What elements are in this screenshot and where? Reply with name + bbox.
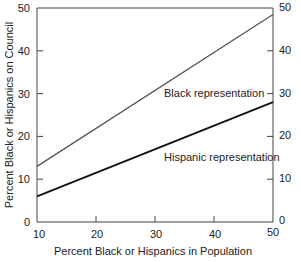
svg-text:0: 0 (24, 216, 30, 228)
svg-text:30: 30 (18, 88, 30, 100)
right-y-tick-labels: 0 10 20 30 40 50 (279, 1, 291, 226)
hispanic-representation-label: Hispanic representation (164, 151, 280, 163)
svg-text:40: 40 (209, 228, 221, 240)
x-axis-title: Percent Black or Hispanics in Population (54, 245, 252, 257)
x-ticks (96, 216, 214, 222)
left-y-tick-labels: 0 10 20 30 40 50 (18, 2, 30, 228)
y-axis-title: Percent Black or Hispanics on Council (3, 22, 15, 208)
svg-text:50: 50 (18, 2, 30, 14)
left-y-ticks (37, 51, 43, 179)
svg-text:50: 50 (267, 226, 279, 238)
black-representation-label: Black representation (164, 87, 264, 99)
svg-text:30: 30 (279, 87, 291, 99)
svg-text:40: 40 (279, 44, 291, 56)
svg-text:20: 20 (279, 129, 291, 141)
svg-text:10: 10 (279, 172, 291, 184)
hispanic-representation-line (37, 102, 273, 196)
svg-text:50: 50 (279, 1, 291, 13)
svg-text:20: 20 (91, 228, 103, 240)
svg-text:30: 30 (150, 228, 162, 240)
svg-text:40: 40 (18, 45, 30, 57)
svg-text:10: 10 (18, 173, 30, 185)
svg-text:20: 20 (18, 130, 30, 142)
svg-text:0: 0 (279, 214, 285, 226)
x-tick-labels: 10 20 30 40 50 (33, 226, 279, 240)
line-chart: 0 10 20 30 40 50 0 10 20 30 40 50 10 20 … (0, 0, 301, 262)
svg-text:10: 10 (33, 228, 45, 240)
